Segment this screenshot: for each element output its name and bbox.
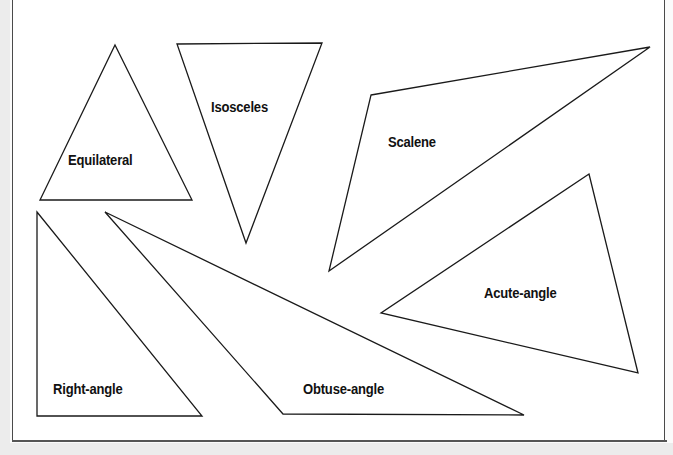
figure-page: Equilateral Isosceles Scalene Acute-angl… (0, 0, 673, 455)
label-acute-angle: Acute-angle (484, 285, 556, 301)
label-isosceles: Isosceles (211, 99, 268, 115)
label-scalene: Scalene (388, 134, 436, 150)
triangle-equilateral (40, 45, 192, 200)
triangle-isosceles (177, 43, 322, 243)
label-obtuse-angle: Obtuse-angle (303, 381, 384, 397)
label-right-angle: Right-angle (53, 381, 123, 397)
label-equilateral: Equilateral (68, 152, 133, 168)
